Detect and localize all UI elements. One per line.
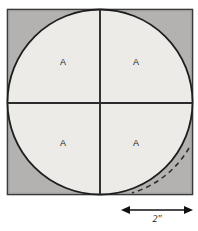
quadrant-label-bottom-right: A xyxy=(133,138,139,148)
geometry-figure: A A A A 2" xyxy=(0,0,198,231)
dimension-arrowhead-left xyxy=(121,206,130,214)
figure-canvas: A A A A 2" xyxy=(0,0,198,231)
dimension-arrowhead-right xyxy=(184,206,193,214)
dimension-label: 2" xyxy=(152,213,162,224)
quadrant-label-top-right: A xyxy=(133,57,139,67)
quadrant-label-bottom-left: A xyxy=(60,138,66,148)
quadrant-label-top-left: A xyxy=(60,57,66,67)
